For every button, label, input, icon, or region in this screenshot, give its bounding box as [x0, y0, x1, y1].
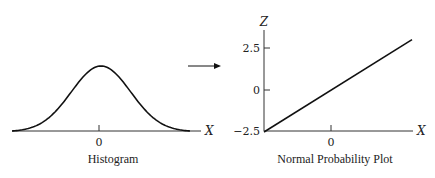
npp-y-tick-label-2-5: 2.5 — [243, 42, 261, 55]
histogram-panel: 0 X Histogram — [12, 66, 214, 166]
npp-caption: Normal Probability Plot — [277, 152, 393, 166]
transform-arrow — [188, 63, 221, 69]
npp-y-tick-label-neg-2-5: −2.5 — [233, 125, 260, 138]
npp-y-axis-label: Z — [259, 15, 269, 29]
arrow-head-icon — [214, 63, 221, 69]
npp-x-tick-label: 0 — [328, 136, 335, 149]
diagram-canvas: 0 X Histogram Z 2.5 0 −2.5 0 X Normal Pr… — [0, 0, 435, 178]
histogram-x-axis-label: X — [204, 124, 214, 138]
histogram-bell-curve — [12, 66, 190, 131]
npp-straight-line — [264, 40, 412, 132]
npp-y-tick-label-0: 0 — [253, 84, 260, 97]
normal-probability-panel: Z 2.5 0 −2.5 0 X Normal Probability Plot — [233, 15, 426, 166]
histogram-x-tick-label: 0 — [96, 136, 103, 149]
histogram-caption: Histogram — [88, 152, 139, 166]
npp-x-axis-label: X — [416, 124, 426, 138]
